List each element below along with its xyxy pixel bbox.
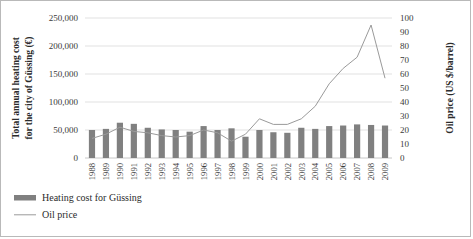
x-axis-year-label: 2004 [310,162,320,180]
x-axis-year-label: 2000 [255,163,265,180]
y-axis-tick-label: 200,000 [49,41,79,51]
y2-axis-tick-label: 10 [400,139,410,149]
y2-axis-tick-label: 60 [400,69,410,79]
y2-axis-tick-label: 80 [400,41,410,51]
bar [159,129,165,158]
bar [89,130,95,158]
x-axis-year-label: 1995 [185,163,195,180]
x-axis-year-label: 1997 [213,162,223,180]
bar [368,125,374,158]
y-axis-tick-label: 0 [74,153,79,163]
bar [173,130,179,158]
bar [382,126,388,158]
bar [228,128,234,158]
x-axis-year-label: 1990 [115,163,125,180]
x-axis-year-label: 2001 [269,163,279,180]
x-axis-year-label: 1999 [241,163,251,180]
bar [340,126,346,158]
bar [298,128,304,158]
x-axis-year-label: 2008 [366,163,376,180]
x-axis-year-label: 2002 [283,163,293,180]
y-axis-tick-label: 50,000 [53,125,78,135]
chart-figure: 050,000100,000150,000200,000250,00001020… [0,0,471,237]
y2-axis-tick-label: 50 [400,83,410,93]
x-axis-year-label: 2007 [352,162,362,180]
bar [312,129,318,158]
legend-label: Heating cost for Güssing [42,192,142,203]
x-axis-year-label: 1989 [101,163,111,180]
x-axis-year-label: 1996 [199,162,209,180]
x-axis-year-label: 2005 [324,163,334,180]
bar [242,137,248,158]
legend-swatch-bar [14,195,36,201]
x-axis-year-label: 2009 [380,163,390,180]
y-axis-tick-label: 250,000 [49,13,79,23]
x-axis-year-label: 1991 [129,163,139,180]
y-axis-title-line1: Total annual heating cost [11,36,21,139]
bar [354,124,360,158]
y2-axis-title: Oil price (US $/barrel) [445,42,456,133]
x-axis-year-label: 1993 [157,163,167,180]
y2-axis-tick-label: 90 [400,27,410,37]
y2-axis-tick-label: 30 [400,111,410,121]
x-axis-year-label: 2003 [297,163,307,180]
y2-axis-tick-label: 20 [400,125,410,135]
x-axis-year-label: 1998 [227,163,237,180]
bar [131,124,137,158]
y-axis-tick-label: 150,000 [49,69,79,79]
dual-axis-chart: 050,000100,000150,000200,000250,00001020… [1,1,472,238]
x-axis-year-label: 1988 [87,163,97,180]
x-axis-year-label: 1992 [143,163,153,180]
bar [284,133,290,158]
y2-axis-tick-label: 40 [400,97,410,107]
oil-price-line [92,25,385,141]
x-axis-year-label: 2006 [338,162,348,180]
y2-axis-tick-label: 100 [400,13,414,23]
bar [270,132,276,158]
y-axis-tick-label: 100,000 [49,97,79,107]
x-axis-year-label: 1994 [171,162,181,180]
y2-axis-tick-label: 70 [400,55,410,65]
legend-label: Oil price [42,209,78,220]
y2-axis-tick-label: 0 [400,153,405,163]
y-axis-title-line2: for the city of Güssing (€) [24,37,35,140]
bar [326,126,332,158]
bar [256,130,262,158]
